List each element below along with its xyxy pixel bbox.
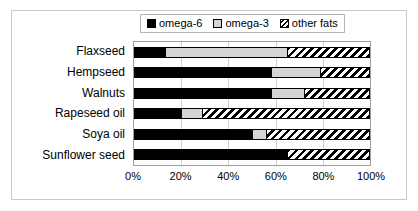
- x-axis-tick-label: 80%: [312, 170, 334, 182]
- x-axis-tick-label: 0%: [125, 170, 141, 182]
- bar-segment-omega-6: [134, 88, 271, 99]
- y-axis-label-walnuts: Walnuts: [13, 88, 130, 99]
- bar-segment-omega-6: [134, 47, 165, 58]
- stacked-bars: [134, 42, 370, 165]
- x-axis-tick-label: 60%: [265, 170, 287, 182]
- y-axis-label-flaxseed: Flaxseed: [13, 46, 130, 57]
- bar-segment-other-fats: [320, 67, 370, 78]
- bar-row: [134, 47, 370, 58]
- x-axis-tick-label: 100%: [357, 170, 385, 182]
- bar-segment-omega-3: [181, 108, 202, 119]
- chart-legend: omega-6 omega-3 other fats: [140, 14, 345, 33]
- legend-swatch-omega-6-icon: [147, 19, 156, 28]
- x-axis-tick-label: 40%: [217, 170, 239, 182]
- bar-row: [134, 67, 370, 78]
- bar-segment-omega-3: [165, 47, 288, 58]
- bar-segment-omega-6: [134, 129, 252, 140]
- legend-swatch-omega-3-icon: [213, 19, 222, 28]
- bar-segment-other-fats: [304, 88, 370, 99]
- x-axis-tick-labels: 0%20%40%60%80%100%: [133, 170, 371, 186]
- legend-swatch-other-fats-icon: [280, 19, 289, 28]
- bar-segment-omega-3: [252, 129, 266, 140]
- bar-row: [134, 108, 370, 119]
- legend-label-other-fats: other fats: [292, 18, 338, 29]
- y-axis-label-hempseed: Hempseed: [13, 67, 130, 78]
- bar-row: [134, 88, 370, 99]
- bar-segment-omega-6: [134, 108, 181, 119]
- bar-row: [134, 149, 370, 160]
- y-axis-label-rapeseed-oil: Rapeseed oil: [13, 108, 130, 119]
- legend-item-other-fats: other fats: [280, 18, 338, 29]
- y-axis-label-sunflower-seed: Sunflower seed: [13, 150, 130, 161]
- bar-segment-other-fats: [266, 129, 370, 140]
- bar-segment-omega-3: [271, 88, 304, 99]
- legend-label-omega-6: omega-6: [159, 18, 202, 29]
- bar-segment-other-fats: [287, 149, 370, 160]
- legend-item-omega-6: omega-6: [147, 18, 202, 29]
- bar-segment-other-fats: [202, 108, 370, 119]
- y-axis-category-labels: Flaxseed Hempseed Walnuts Rapeseed oil S…: [13, 41, 130, 166]
- bar-segment-omega-6: [134, 67, 271, 78]
- x-axis-tick-label: 20%: [170, 170, 192, 182]
- plot-area: [133, 41, 371, 166]
- legend-item-omega-3: omega-3: [213, 18, 268, 29]
- bar-row: [134, 129, 370, 140]
- bar-segment-other-fats: [287, 47, 370, 58]
- chart-figure: omega-6 omega-3 other fats Flaxseed Hemp…: [0, 0, 418, 211]
- bar-segment-omega-3: [271, 67, 321, 78]
- legend-label-omega-3: omega-3: [225, 18, 268, 29]
- bar-segment-omega-6: [134, 149, 287, 160]
- y-axis-label-soya-oil: Soya oil: [13, 129, 130, 140]
